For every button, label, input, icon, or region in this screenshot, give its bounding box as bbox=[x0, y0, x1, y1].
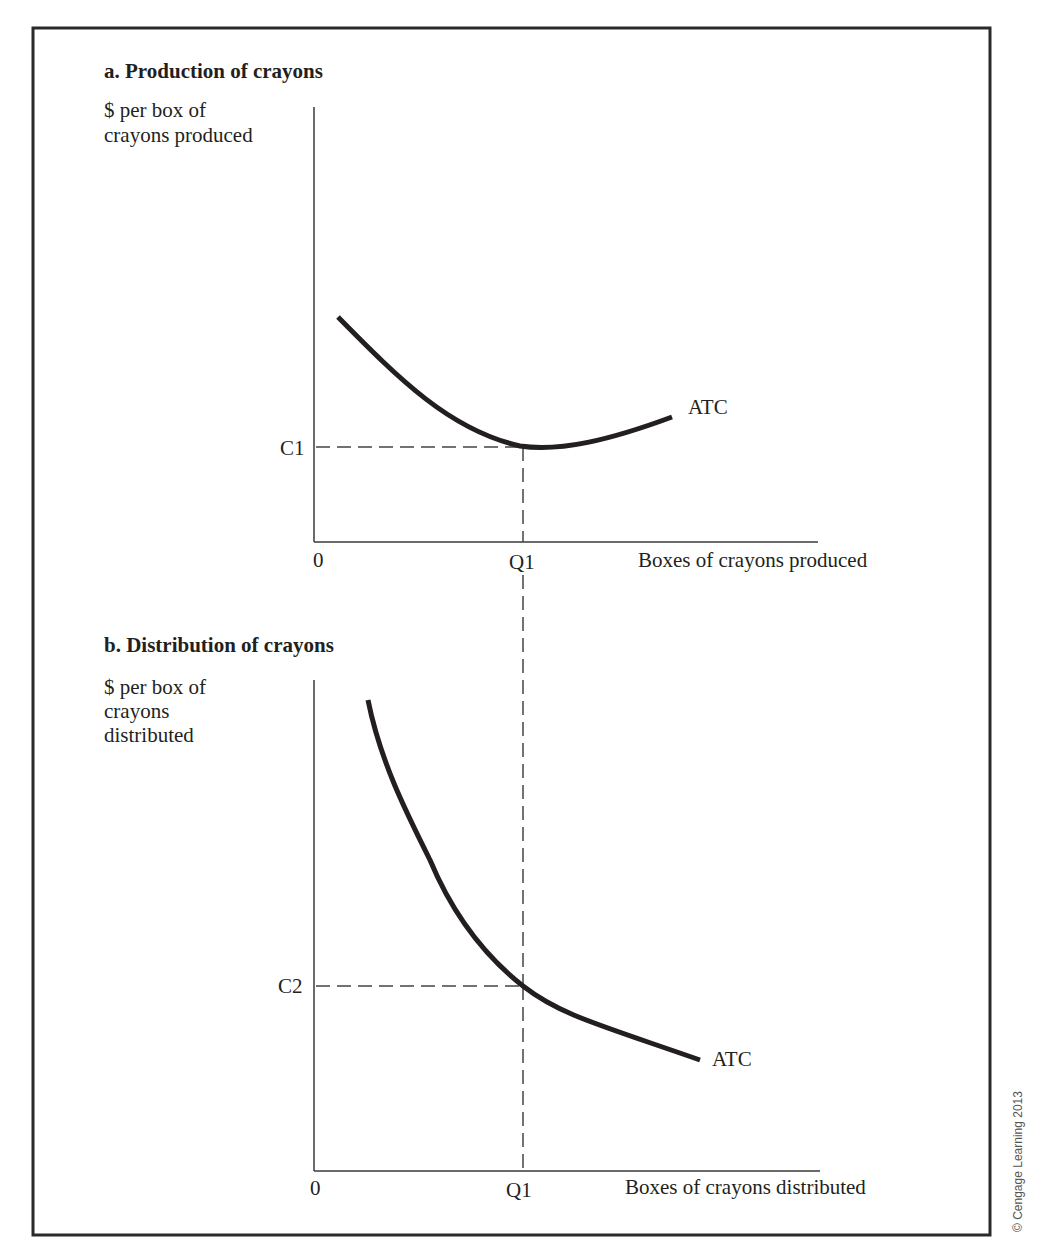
panel-b-atc-label: ATC bbox=[712, 1047, 752, 1071]
panel-a-atc-label: ATC bbox=[688, 395, 728, 419]
panel-b-xlabel: Boxes of crayons distributed bbox=[625, 1175, 866, 1199]
panel-b: b. Distribution of crayons $ per box of … bbox=[104, 633, 866, 1202]
panel-a-xlabel: Boxes of crayons produced bbox=[638, 548, 868, 572]
panel-a-q1-label: Q1 bbox=[509, 550, 535, 574]
panel-b-atc-curve bbox=[368, 700, 700, 1060]
panel-a-atc-curve bbox=[338, 317, 672, 448]
figure-frame bbox=[33, 28, 990, 1235]
figure: a. Production of crayons $ per box of cr… bbox=[0, 0, 1041, 1259]
panel-b-ylabel-line3: distributed bbox=[104, 723, 194, 747]
panel-a: a. Production of crayons $ per box of cr… bbox=[104, 59, 868, 574]
panel-b-title: b. Distribution of crayons bbox=[104, 633, 334, 657]
panel-b-q1-label: Q1 bbox=[506, 1178, 532, 1202]
panel-b-ylabel-line1: $ per box of bbox=[104, 675, 206, 699]
panel-a-c1-label: C1 bbox=[280, 436, 305, 460]
panel-a-ylabel-line2: crayons produced bbox=[104, 123, 253, 147]
panel-b-origin-label: 0 bbox=[310, 1176, 321, 1200]
panel-a-title: a. Production of crayons bbox=[104, 59, 323, 83]
panel-a-ylabel-line1: $ per box of bbox=[104, 98, 206, 122]
panel-b-c2-label: C2 bbox=[278, 974, 303, 998]
panel-a-origin-label: 0 bbox=[313, 548, 324, 572]
copyright-notice: © Cengage Learning 2013 bbox=[1011, 1091, 1025, 1232]
panel-b-ylabel-line2: crayons bbox=[104, 699, 169, 723]
